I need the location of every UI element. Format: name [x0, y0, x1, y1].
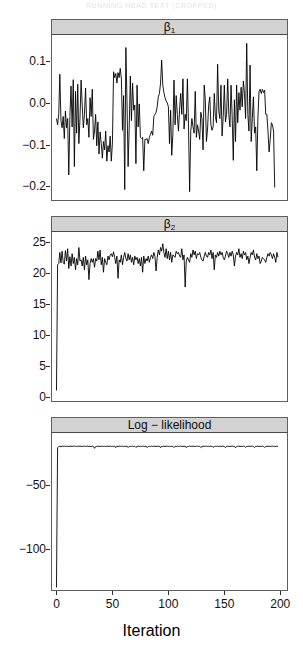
x-tick-mark: [112, 591, 113, 595]
x-tick-label: 50: [92, 598, 132, 610]
figure-page: RUNNING HEAD TEXT (CROPPED) β1 β2 Log − …: [0, 0, 303, 654]
x-tick-mark: [56, 591, 57, 595]
x-tick-mark: [280, 591, 281, 595]
x-tick-label: 200: [260, 598, 300, 610]
x-tick-mark: [224, 591, 225, 595]
x-tick-mark: [168, 591, 169, 595]
x-axis-title: Iteration: [0, 622, 303, 640]
x-tick-label: 0: [36, 598, 76, 610]
x-axis-labels: 050100150200: [0, 0, 303, 654]
x-tick-label: 100: [148, 598, 188, 610]
x-tick-label: 150: [204, 598, 244, 610]
